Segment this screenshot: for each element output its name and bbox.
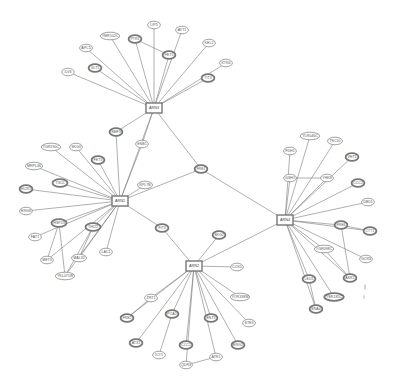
node-fat1[interactable]: FAT1: [29, 233, 42, 241]
node-fdh1[interactable]: FDH1: [284, 147, 297, 155]
node-ylr046c[interactable]: YLR046C: [300, 132, 319, 140]
node-smf3[interactable]: SMF3: [110, 128, 123, 136]
node-akr1[interactable]: AKR1: [344, 274, 357, 282]
edge-arn3-kel2: [154, 43, 209, 108]
network-diagram: ILV3APC5GLT1YMR102CPTR1LIP5AYT1FET5KEL2K…: [0, 0, 402, 387]
node-label: YOR338W: [231, 295, 249, 299]
node-cox5[interactable]: COX5: [231, 263, 244, 271]
node-label: FRE6: [336, 223, 345, 227]
edge-arn3-ymr102c: [110, 36, 154, 108]
node-skg2[interactable]: SKG2: [213, 231, 226, 239]
node-tit3[interactable]: TIT3: [202, 74, 215, 82]
node-kel2[interactable]: KEL2: [203, 39, 216, 47]
node-ilv3[interactable]: ILV3: [62, 68, 75, 76]
node-apc5[interactable]: APC5: [80, 44, 93, 52]
hub-arn2[interactable]: ARN2: [186, 261, 202, 271]
node-label: APC5: [81, 46, 90, 50]
node-ent3[interactable]: ENT3: [205, 314, 218, 322]
hub-label: ARN2: [189, 264, 199, 268]
node-atr1[interactable]: ATR1: [210, 353, 223, 361]
node-mrpl36[interactable]: MRPL36: [25, 162, 42, 170]
node-erg8[interactable]: ERG8: [20, 207, 33, 215]
node-label: PTR1: [130, 37, 139, 41]
node-atx1[interactable]: ATX1: [130, 339, 143, 347]
node-fet3[interactable]: FET3: [92, 156, 105, 164]
node-ykl071w[interactable]: YKL071W: [55, 272, 74, 280]
node-ayt1[interactable]: AYT1: [176, 26, 189, 34]
node-lip5[interactable]: LIP5: [148, 21, 161, 29]
node-label: AYT1: [178, 28, 187, 32]
edge-fre6-akr1: [341, 225, 350, 278]
node-label: ENB1: [137, 142, 146, 146]
node-label: KTR4: [221, 61, 230, 65]
edge-arn1-lac1: [106, 201, 120, 252]
node-label: THI22: [88, 225, 98, 229]
node-label: CTT1: [366, 229, 375, 233]
node-yer185c[interactable]: YER185C: [324, 293, 343, 301]
node-icy1[interactable]: ICY1: [153, 351, 166, 359]
hub-arn1[interactable]: ARN1: [112, 196, 128, 206]
node-ymr102c[interactable]: YMR102C: [100, 32, 119, 40]
node-met3[interactable]: MET3: [41, 256, 54, 264]
node-skg3[interactable]: SKG3: [70, 143, 83, 151]
node-label: GLT1: [91, 66, 100, 70]
node-pca1[interactable]: PCA1: [166, 310, 179, 318]
node-label: YHK8: [322, 176, 331, 180]
node-yor338w[interactable]: YOR338W: [230, 293, 249, 301]
node-ctt1[interactable]: CTT1: [364, 227, 377, 235]
node-zrt1[interactable]: ZRT1: [145, 294, 158, 302]
hub-label: ARN3: [149, 106, 159, 110]
scan-artifact: [363, 284, 366, 299]
node-fit3[interactable]: FIT3: [156, 224, 169, 232]
network-graph-svg: ILV3APC5GLT1YMR102CPTR1LIP5AYT1FET5KEL2K…: [0, 0, 402, 387]
node-gsh1[interactable]: GSH1: [284, 174, 297, 182]
node-hcr1[interactable]: HCR1: [20, 185, 33, 193]
node-thi22[interactable]: THI22: [86, 223, 101, 231]
node-label: SMF3: [111, 130, 121, 134]
edge-arn3-ayt1: [154, 30, 182, 108]
node-qdr3[interactable]: QDR3: [180, 361, 193, 369]
node-mal32[interactable]: MAL32: [72, 254, 87, 262]
node-fre2[interactable]: FRE2: [121, 314, 134, 322]
node-label: YMR102C: [102, 34, 119, 38]
node-bna4[interactable]: BNA4: [310, 305, 323, 313]
node-tsc10[interactable]: TSC10: [328, 137, 343, 145]
node-label: ZRT1: [147, 296, 156, 300]
node-glt1[interactable]: GLT1: [89, 64, 102, 72]
node-ccc1[interactable]: CCC1: [180, 341, 193, 349]
node-ccc2[interactable]: CCC2: [352, 179, 365, 187]
node-erg2[interactable]: ERG2: [232, 341, 245, 349]
node-ygr190c[interactable]: YGR190C: [41, 143, 60, 151]
node-rpl7b[interactable]: RPL7B: [138, 181, 153, 189]
node-tis11[interactable]: TIS11: [53, 179, 68, 187]
node-hsp23[interactable]: HSP23: [52, 219, 67, 227]
node-label: YLR046C: [302, 134, 318, 138]
node-label: LIP5: [150, 23, 157, 27]
edge-arn1-ygr190c: [51, 147, 120, 201]
node-ktr4[interactable]: KTR4: [220, 59, 233, 67]
node-gcr3[interactable]: GCR3: [360, 255, 373, 263]
node-fet5[interactable]: FET5: [163, 51, 176, 59]
node-label: HSP23: [53, 221, 64, 225]
hub-arn4[interactable]: ARN4: [277, 215, 293, 225]
node-yhk8[interactable]: YHK8: [321, 174, 334, 182]
edge-arn1-fre1: [120, 169, 201, 201]
node-dbd1[interactable]: DBD1: [362, 198, 375, 206]
node-vht1[interactable]: VHT1: [346, 153, 359, 161]
node-label: ENT3: [206, 316, 215, 320]
node-label: RPL7B: [139, 183, 151, 187]
node-label: ERG8: [21, 209, 31, 213]
node-label: KEL2: [205, 41, 214, 45]
node-ptr1[interactable]: PTR1: [129, 35, 142, 43]
node-label: LEU1: [305, 277, 314, 281]
hub-arn3[interactable]: ARN3: [146, 103, 162, 113]
node-label: MET3: [42, 258, 52, 262]
node-enb1[interactable]: ENB1: [136, 140, 149, 148]
node-fre1[interactable]: FRE1: [195, 165, 208, 173]
node-lac1[interactable]: LAC1: [100, 248, 113, 256]
node-ste3[interactable]: STE3: [243, 319, 256, 327]
edge-arn1-fet3: [98, 160, 120, 201]
node-fre6[interactable]: FRE6: [335, 221, 348, 229]
node-ygr098c[interactable]: YGR098C: [314, 245, 333, 253]
node-leu1[interactable]: LEU1: [303, 275, 316, 283]
